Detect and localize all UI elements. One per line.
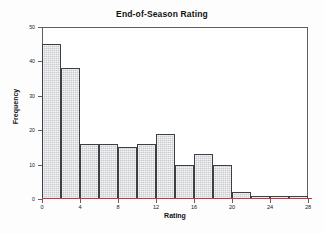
histogram-bar <box>175 165 194 199</box>
x-axis-tick-label: 24 <box>263 204 277 210</box>
chart-title: End-of-Season Rating <box>0 9 324 19</box>
x-axis-tick <box>118 199 119 203</box>
x-axis-tick-label: 28 <box>301 204 315 210</box>
baseline-reference-line <box>42 198 312 199</box>
y-axis-tick-label: 30 <box>19 93 35 99</box>
y-axis-tick <box>38 130 42 131</box>
x-axis-tick <box>42 199 43 203</box>
x-axis-tick-label: 16 <box>187 204 201 210</box>
histogram-bar <box>118 147 137 199</box>
histogram-bar <box>194 154 213 199</box>
histogram-bar <box>61 68 80 199</box>
x-axis-tick-label: 4 <box>73 204 87 210</box>
y-axis-tick-label: 40 <box>19 58 35 64</box>
x-axis-tick-label: 20 <box>225 204 239 210</box>
histogram-bar <box>99 144 118 199</box>
x-axis-tick <box>308 199 309 203</box>
x-axis-tick-label: 8 <box>111 204 125 210</box>
y-axis-title: Frequency <box>12 62 19 152</box>
y-axis-tick <box>38 27 42 28</box>
y-axis-tick-label: 20 <box>19 127 35 133</box>
histogram-chart: End-of-Season Rating Rating Frequency 01… <box>0 0 324 234</box>
x-axis-tick <box>80 199 81 203</box>
y-axis-tick <box>38 96 42 97</box>
histogram-bar <box>80 144 99 199</box>
y-axis-tick-label: 50 <box>19 24 35 30</box>
histogram-bar <box>156 134 175 199</box>
y-axis-tick-label: 10 <box>19 162 35 168</box>
plot-area <box>42 27 308 199</box>
x-axis-tick-label: 0 <box>35 204 49 210</box>
y-axis-tick <box>38 61 42 62</box>
y-axis-tick <box>38 165 42 166</box>
histogram-bar <box>137 144 156 199</box>
x-axis-tick <box>270 199 271 203</box>
x-axis-title: Rating <box>42 212 308 219</box>
histogram-bar <box>42 44 61 199</box>
x-axis-tick <box>232 199 233 203</box>
histogram-bar <box>213 165 232 199</box>
x-axis-tick-label: 12 <box>149 204 163 210</box>
y-axis-tick-label: 0 <box>19 196 35 202</box>
x-axis-tick <box>194 199 195 203</box>
x-axis-tick <box>156 199 157 203</box>
